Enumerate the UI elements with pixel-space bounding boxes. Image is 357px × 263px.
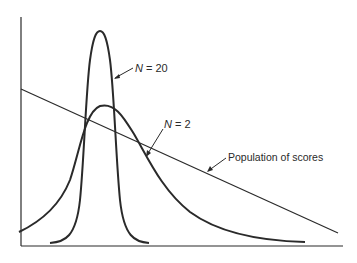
n2-curve bbox=[19, 105, 305, 242]
n2-label: N = 2 bbox=[164, 118, 191, 130]
n20-label-value: = 20 bbox=[143, 62, 168, 74]
population-arrowhead bbox=[207, 166, 213, 172]
n2-label-value: = 2 bbox=[172, 118, 191, 130]
population-label: Population of scores bbox=[228, 151, 323, 163]
n20-label: N = 20 bbox=[135, 62, 168, 74]
n20-label-var: N bbox=[135, 62, 143, 74]
n2-label-var: N bbox=[164, 118, 172, 130]
n2-leader bbox=[147, 129, 163, 155]
n2-arrowhead bbox=[146, 150, 151, 157]
n20-arrowhead bbox=[114, 74, 120, 79]
sampling-distribution-chart bbox=[0, 0, 357, 263]
